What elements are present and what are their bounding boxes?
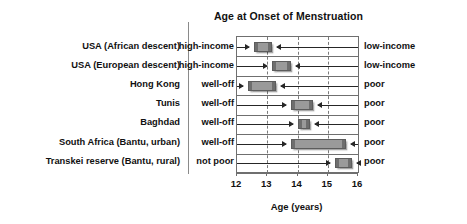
category-label: South Africa (Bantu, urban) (0, 132, 186, 151)
range-arrow-right (277, 47, 358, 48)
left-status-label: well-off (190, 132, 234, 151)
right-status-label: low-income (364, 55, 464, 74)
bar-cap-right (342, 140, 345, 148)
right-status-label: poor (364, 113, 464, 132)
left-status-label: well-off (190, 94, 234, 113)
bar-cap-right (348, 159, 351, 167)
range-arrow-right (351, 144, 358, 145)
category-label: Hong Kong (0, 74, 186, 93)
chart-root: Age at Onset of Menstruation USA (Africa… (0, 0, 467, 224)
right-status-label: poor (364, 151, 464, 170)
category-label: USA (European descent) (0, 55, 186, 74)
category-label-column: USA (African descent) USA (European desc… (0, 36, 186, 172)
range-arrow-left (237, 66, 267, 67)
x-tick-label: 13 (254, 178, 278, 189)
range-arrow-right (296, 66, 358, 67)
range-bar[interactable] (272, 61, 292, 71)
range-arrow-left (237, 105, 286, 106)
bar-cap-right (309, 101, 312, 109)
bar-cap-left (336, 159, 339, 167)
right-status-label: poor (364, 94, 464, 113)
bar-cap-left (292, 101, 295, 109)
left-status-label: high-income (190, 55, 234, 74)
left-status-label: not poor (190, 151, 234, 170)
x-tick (357, 172, 358, 176)
range-arrow-right (318, 105, 358, 106)
bar-cap-left (249, 82, 252, 90)
bar-cap-right (306, 120, 309, 128)
range-bar[interactable] (298, 119, 310, 129)
x-tick-label: 12 (224, 178, 248, 189)
plot-area (236, 36, 359, 173)
right-status-column: low-income low-income poor poor poor poo… (364, 36, 464, 172)
bar-cap-left (273, 62, 276, 70)
left-status-column: high-income high-income well-off well-of… (190, 36, 234, 172)
range-arrow-left (237, 124, 293, 125)
range-bar[interactable] (291, 139, 345, 149)
bar-cap-left (255, 43, 258, 51)
range-arrow-right (357, 163, 359, 164)
range-arrow-left (237, 163, 330, 164)
plot-inner (237, 37, 358, 173)
bar-cap-left (299, 120, 302, 128)
x-tick-label: 16 (345, 178, 369, 189)
right-status-label: low-income (364, 36, 464, 55)
x-tick (266, 172, 267, 176)
bar-cap-right (268, 43, 271, 51)
category-label: USA (African descent) (0, 36, 186, 55)
range-bar[interactable] (291, 100, 312, 110)
left-status-label: well-off (190, 113, 234, 132)
bar-cap-right (272, 82, 275, 90)
right-status-label: poor (364, 132, 464, 151)
range-arrow-right (315, 124, 358, 125)
range-arrow-right (281, 86, 358, 87)
range-bar[interactable] (254, 42, 272, 52)
range-bar[interactable] (248, 81, 277, 91)
range-arrow-left (237, 47, 249, 48)
x-tick-label: 14 (285, 178, 309, 189)
left-status-label: well-off (190, 74, 234, 93)
x-axis-title: Age (years) (236, 201, 357, 212)
x-tick-label: 15 (315, 178, 339, 189)
category-label: Tunis (0, 94, 186, 113)
bar-cap-right (287, 62, 290, 70)
x-tick (327, 172, 328, 176)
chart-title-text: Age at Onset of Menstruation (214, 10, 363, 22)
range-bar[interactable] (335, 158, 352, 168)
range-arrow-left (237, 144, 286, 145)
left-status-label: high-income (190, 36, 234, 55)
bar-cap-left (292, 140, 295, 148)
x-tick (236, 172, 237, 176)
category-label: Transkei reserve (Bantu, rural) (0, 151, 186, 170)
chart-title: Age at Onset of Menstruation (0, 10, 467, 22)
category-label: Baghdad (0, 113, 186, 132)
range-arrow-left (237, 86, 243, 87)
x-tick (297, 172, 298, 176)
row-separator (237, 173, 358, 174)
right-status-label: poor (364, 74, 464, 93)
